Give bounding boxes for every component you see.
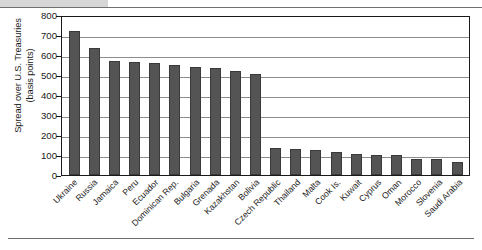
- y-axis-tick-label: 400: [17, 91, 57, 101]
- y-axis-tick-label: 600: [17, 51, 57, 61]
- bar-slot: [225, 17, 245, 175]
- plot-area: [61, 16, 470, 176]
- bar[interactable]: [290, 149, 301, 175]
- bar[interactable]: [452, 162, 463, 175]
- bar[interactable]: [270, 148, 281, 175]
- bar-slot: [427, 17, 447, 175]
- bar[interactable]: [210, 68, 221, 175]
- bar-slot: [84, 17, 104, 175]
- bar[interactable]: [310, 150, 321, 175]
- bar-slot: [306, 17, 326, 175]
- bar-slot: [64, 17, 84, 175]
- y-axis-tick-label: 100: [17, 151, 57, 161]
- bar[interactable]: [109, 61, 120, 175]
- x-axis-category-labels: UkraineRussiaJamaicaPeruEcuadorDominican…: [61, 178, 470, 236]
- bar[interactable]: [331, 152, 342, 175]
- bar-slot: [165, 17, 185, 175]
- y-axis-tick-label: 700: [17, 31, 57, 41]
- bar-slot: [407, 17, 427, 175]
- y-axis-tick-label: 500: [17, 71, 57, 81]
- bar[interactable]: [69, 31, 80, 175]
- bar[interactable]: [371, 155, 382, 175]
- y-axis-tick-label: 300: [17, 111, 57, 121]
- bar[interactable]: [129, 62, 140, 175]
- bar[interactable]: [351, 154, 362, 175]
- bar-series: [62, 17, 469, 175]
- y-axis-tick-label: 800: [17, 11, 57, 21]
- bar[interactable]: [169, 65, 180, 175]
- bar[interactable]: [250, 74, 261, 175]
- bar-slot: [245, 17, 265, 175]
- y-axis-tick-mark: [56, 176, 61, 177]
- bar-chart-figure: Spread over U.S. Treasuries (basis point…: [0, 8, 482, 236]
- bar-slot: [205, 17, 225, 175]
- bar[interactable]: [230, 71, 241, 175]
- bar-slot: [366, 17, 386, 175]
- bar-slot: [124, 17, 144, 175]
- bar-slot: [266, 17, 286, 175]
- bar-slot: [346, 17, 366, 175]
- y-axis-tick-label: 0: [17, 171, 57, 181]
- bar[interactable]: [431, 159, 442, 175]
- bar-slot: [326, 17, 346, 175]
- bar[interactable]: [391, 155, 402, 175]
- bar[interactable]: [89, 48, 100, 175]
- bar-slot: [185, 17, 205, 175]
- bar[interactable]: [149, 63, 160, 175]
- bottom-rule: [8, 238, 474, 239]
- bar-slot: [145, 17, 165, 175]
- bar-slot: [104, 17, 124, 175]
- bar[interactable]: [190, 67, 201, 175]
- bar-slot: [387, 17, 407, 175]
- bar[interactable]: [411, 159, 422, 175]
- y-axis-tick-label: 200: [17, 131, 57, 141]
- bar-slot: [447, 17, 467, 175]
- bar-slot: [286, 17, 306, 175]
